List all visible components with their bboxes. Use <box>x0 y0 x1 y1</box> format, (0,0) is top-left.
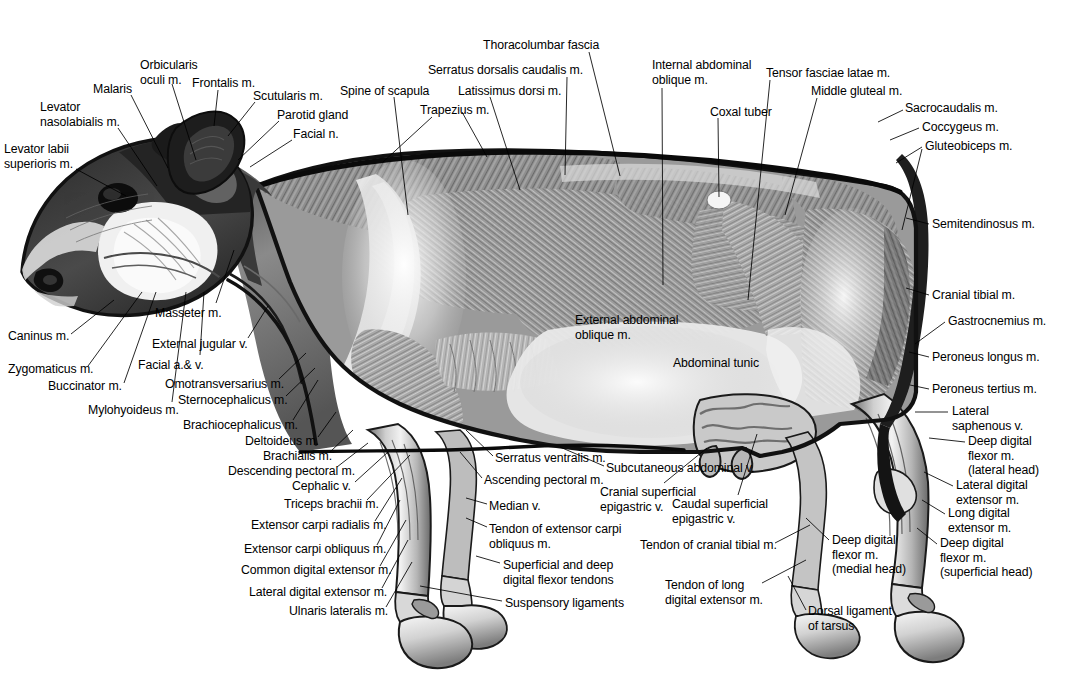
label-serratus-ventralis: Serratus ventralis m. <box>495 451 606 466</box>
label-descending-pectoral: Descending pectoral m. <box>228 464 355 479</box>
label-peroneus-longus: Peroneus longus m. <box>932 350 1040 365</box>
label-thoracolumbar-fascia: Thoracolumbar fascia <box>483 38 599 53</box>
label-peroneus-tertius: Peroneus tertius m. <box>932 382 1037 397</box>
label-triceps-brachii: Triceps brachii m. <box>284 497 379 512</box>
label-cranial-tibial: Cranial tibial m. <box>932 288 1015 303</box>
label-facial-a-v: Facial a.& v. <box>138 358 203 373</box>
label-deep-digital-flexor-lateral: Deep digital flexor m. (lateral head) <box>968 434 1039 478</box>
label-lateral-saphenous: Lateral saphenous v. <box>952 404 1023 433</box>
label-deep-digital-flexor-medial: Deep digital flexor m. (medial head) <box>832 533 906 577</box>
label-spine-of-scapula: Spine of scapula <box>340 84 429 99</box>
label-tensor-fasciae-latae: Tensor fasciae latae m. <box>766 66 890 81</box>
label-gastrocnemius: Gastrocnemius m. <box>948 314 1046 329</box>
label-masseter: Masseter m. <box>155 306 222 321</box>
label-facial-n: Facial n. <box>293 127 339 142</box>
label-common-digital-extensor: Common digital extensor m. <box>241 563 392 578</box>
label-semitendinosus: Semitendinosus m. <box>932 217 1035 232</box>
label-latissimus-dorsi: Latissimus dorsi m. <box>458 84 561 99</box>
label-gluteobiceps: Gluteobiceps m. <box>925 139 1012 154</box>
label-malaris: Malaris <box>93 82 132 97</box>
label-ulnaris-lateralis: Ulnaris lateralis m. <box>289 604 388 619</box>
label-lateral-digital-extensor: Lateral digital extensor m. <box>956 478 1028 507</box>
label-frontalis: Frontalis m. <box>192 76 255 91</box>
label-tendon-extensor-carpi-obliquus: Tendon of extensor carpi obliquus m. <box>489 522 621 551</box>
label-extensor-carpi-radialis: Extensor carpi radialis m. <box>251 518 386 533</box>
label-trapezius: Trapezius m. <box>420 103 489 118</box>
label-middle-gluteal: Middle gluteal m. <box>811 84 902 99</box>
label-extensor-carpi-obliquus: Extensor carpi obliquus m. <box>244 542 386 557</box>
label-cephalic-v: Cephalic v. <box>292 479 351 494</box>
label-sternocephalicus: Sternocephalicus m. <box>178 393 288 408</box>
label-buccinator: Buccinator m. <box>48 379 122 394</box>
label-deltoideus: Deltoideus m. <box>245 434 319 449</box>
label-caudal-superficial-epigastric: Caudal superficial epigastric v. <box>672 497 768 526</box>
label-omotransversarius: Omotransversarius m. <box>165 377 284 392</box>
label-lateral-digital-extensor-fore: Lateral digital extensor m. <box>249 585 387 600</box>
label-tendon-cranial-tibial: Tendon of cranial tibial m. <box>640 538 777 553</box>
label-subcutaneous-abdominal-v: Subcutaneous abdominal v. <box>606 461 754 476</box>
label-coxal-tuber: Coxal tuber <box>710 105 772 120</box>
label-orbicularis-oculi: Orbicularis oculi m. <box>140 58 198 87</box>
label-median-v: Median v. <box>489 499 541 514</box>
label-tendon-long-digital-extensor: Tendon of long digital extensor m. <box>665 578 763 607</box>
label-external-jugular: External jugular v. <box>152 337 248 352</box>
label-ascending-pectoral: Ascending pectoral m. <box>484 473 604 488</box>
label-serratus-dorsalis-caudalis: Serratus dorsalis caudalis m. <box>428 63 583 78</box>
label-caninus: Caninus m. <box>8 329 69 344</box>
label-levator-nasolabialis: Levator nasolabialis m. <box>40 100 120 129</box>
label-parotid-gland: Parotid gland <box>277 108 348 123</box>
label-superficial-deep-flexor-tendons: Superficial and deep digital flexor tend… <box>503 558 614 587</box>
label-internal-abdominal-oblique: Internal abdominal oblique m. <box>652 58 751 87</box>
label-levator-labii-superioris: Levator labii superioris m. <box>4 142 73 171</box>
label-long-digital-extensor: Long digital extensor m. <box>948 506 1011 535</box>
label-dorsal-ligament-of-tarsus: Dorsal ligament of tarsus <box>808 604 892 633</box>
label-scutularis: Scutularis m. <box>253 89 323 104</box>
anatomy-figure: Levator labii superioris m.Levator nasol… <box>0 0 1085 696</box>
label-mylohyoideus: Mylohyoideus m. <box>88 403 179 418</box>
label-coccygeus: Coccygeus m. <box>922 120 999 135</box>
label-deep-digital-flexor-superficial: Deep digital flexor m. (superficial head… <box>940 536 1033 580</box>
label-brachialis: Brachialis m. <box>263 449 332 464</box>
label-sacrocaudalis: Sacrocaudalis m. <box>905 101 998 116</box>
label-zygomaticus: Zygomaticus m. <box>8 362 93 377</box>
label-abdominal-tunic: Abdominal tunic <box>673 356 759 371</box>
label-external-abdominal-oblique: External abdominal oblique m. <box>575 313 678 342</box>
label-brachiocephalicus: Brachiocephalicus m. <box>183 418 298 433</box>
label-suspensory-ligaments: Suspensory ligaments <box>505 596 624 611</box>
